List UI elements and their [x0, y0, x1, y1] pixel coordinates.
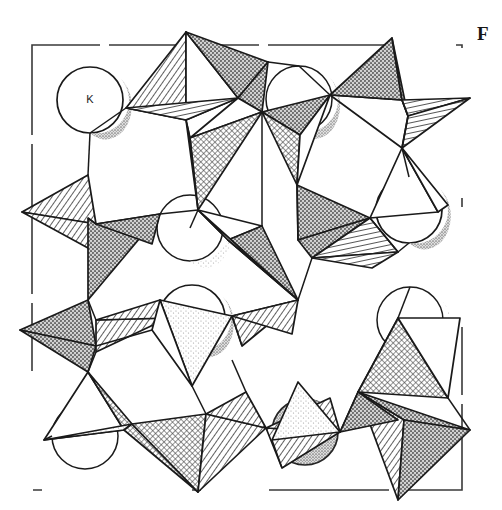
crystal-structure-diagram: K K K K — [0, 0, 502, 510]
tetrahedron-cradle-K3 — [152, 300, 232, 386]
tetrahedron-left-wedge-upper — [22, 175, 96, 248]
tetrahedron-bottom-right — [358, 318, 460, 398]
tetrahedron-left-dark — [88, 214, 160, 300]
cation-sphere-K-1: K — [57, 67, 132, 139]
cation-label-K-1: K — [86, 93, 94, 105]
tetrahedron-under-K3-hatch — [232, 300, 298, 346]
tetrahedron-center — [198, 210, 298, 300]
tetrahedron-right-mid — [370, 148, 448, 218]
tetrahedron-lower-left-open — [44, 372, 132, 440]
figure-root: K K K K — [0, 0, 502, 510]
figure-letter-label: F — [477, 24, 489, 43]
tetrahedron-bottom-center — [198, 392, 266, 492]
tetrahedron-right-edge-wedge — [330, 95, 470, 148]
tetrahedron-bottom-left-dark — [124, 414, 206, 492]
